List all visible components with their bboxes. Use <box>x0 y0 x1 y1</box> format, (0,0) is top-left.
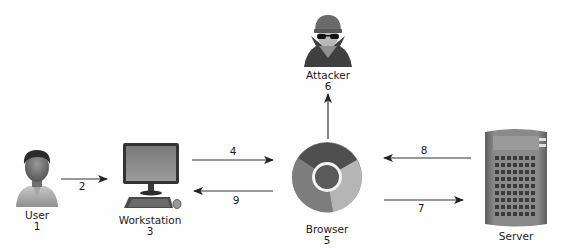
chrome-browser-icon <box>291 141 363 213</box>
attacker-step: 6 <box>325 81 332 92</box>
user-node <box>14 146 60 212</box>
desktop-computer-icon <box>120 141 182 209</box>
workstation-node <box>120 141 182 213</box>
browser-node <box>291 141 363 217</box>
arrow-label-2: 2 <box>79 181 86 192</box>
attack-flow-diagram: 2 4 9 8 7 User 1 <box>0 0 565 252</box>
arrow-label-9: 9 <box>233 195 240 206</box>
arrow-label-7: 7 <box>418 203 425 214</box>
server-label: Server <box>499 231 533 242</box>
user-step: 1 <box>34 221 41 232</box>
attacker-node <box>303 12 353 72</box>
browser-step: 5 <box>324 235 331 246</box>
arrows-layer <box>0 0 565 252</box>
server-tower-icon <box>483 128 549 228</box>
workstation-step: 3 <box>147 226 154 237</box>
server-node <box>483 128 549 232</box>
arrow-label-4: 4 <box>230 146 237 157</box>
hacker-spy-icon <box>303 12 353 68</box>
arrow-label-8: 8 <box>421 145 428 156</box>
person-icon <box>14 146 60 208</box>
